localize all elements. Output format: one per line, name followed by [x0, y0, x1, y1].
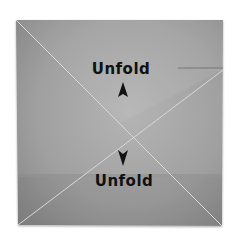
unfold-label-bottom: Unfold [95, 172, 154, 190]
unfold-label-top: Unfold [92, 60, 151, 78]
origami-diagram [0, 0, 237, 237]
